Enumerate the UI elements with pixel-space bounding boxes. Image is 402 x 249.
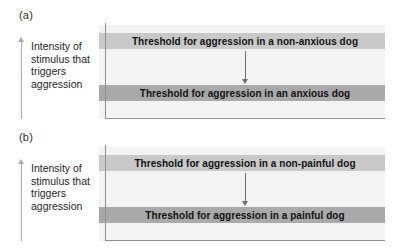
panel-b-lower-threshold-label: Threshold for aggression in a painful do…: [145, 210, 344, 221]
panel-b-label: (b): [19, 131, 33, 144]
panel-b-arrowhead-icon: [242, 201, 248, 206]
panel-a-lower-threshold-label: Threshold for aggression in an anxious d…: [140, 88, 350, 99]
panel-b-upper-threshold-band: Threshold for aggression in a non-painfu…: [99, 155, 385, 171]
panel-b-x-axis-line: [105, 240, 385, 241]
y-axis-arrow-shaft: [21, 41, 22, 119]
panel-a-arrowhead-icon: [242, 79, 248, 84]
panel-b-plot-area: Threshold for aggression in a non-painfu…: [99, 147, 385, 241]
panel-b-arrow-shaft: [245, 173, 246, 202]
panel-a-label: (a): [19, 9, 33, 22]
y-axis-label: Intensity of stimulus that triggers aggr…: [31, 162, 103, 212]
y-axis-label: Intensity of stimulus that triggers aggr…: [31, 40, 103, 90]
panel-a-lower-threshold-band: Threshold for aggression in an anxious d…: [99, 85, 385, 101]
panel-a-arrow-shaft: [245, 51, 246, 80]
panel-b-threshold-shift-arrow-icon: [242, 173, 249, 206]
panel-a-upper-threshold-label: Threshold for aggression in a non-anxiou…: [132, 36, 358, 47]
y-axis-arrow-shaft: [21, 163, 22, 241]
panel-a-upper-threshold-band: Threshold for aggression in a non-anxiou…: [99, 33, 385, 49]
panel-b-upper-threshold-label: Threshold for aggression in a non-painfu…: [134, 158, 355, 169]
y-axis-arrow-icon: [18, 37, 25, 119]
panel-b-y-axis-line: [105, 145, 106, 241]
panel-a-y-axis-line: [105, 23, 106, 119]
panel-b: (b) Intensity of stimulus that triggers …: [0, 122, 402, 246]
panel-a-threshold-shift-arrow-icon: [242, 51, 249, 84]
panel-a: (a) Intensity of stimulus that triggers …: [0, 0, 402, 124]
panel-a-plot-inner: Threshold for aggression in a non-anxiou…: [99, 25, 385, 119]
panel-a-plot-area: Threshold for aggression in a non-anxiou…: [99, 25, 385, 119]
y-axis-arrow-icon: [18, 159, 25, 241]
panel-b-lower-threshold-band: Threshold for aggression in a painful do…: [99, 207, 385, 223]
panel-a-x-axis-line: [105, 118, 385, 119]
figure-root: { "figure": { "axis_caption": "Intensity…: [0, 0, 402, 249]
panel-b-plot-inner: Threshold for aggression in a non-painfu…: [99, 147, 385, 241]
